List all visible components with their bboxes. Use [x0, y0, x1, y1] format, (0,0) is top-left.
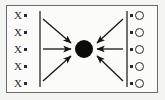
right-item-circle-icon	[135, 28, 144, 37]
right-item-circle-icon	[135, 11, 144, 20]
list-item[interactable]	[130, 9, 144, 21]
list-item[interactable]	[130, 77, 144, 89]
right-target-column	[130, 9, 156, 89]
right-item-circle-icon	[135, 79, 144, 88]
right-item-dot-icon	[130, 82, 133, 85]
right-item-dot-icon	[130, 48, 133, 51]
right-item-dot-icon	[130, 31, 133, 34]
list-item[interactable]	[130, 26, 144, 38]
list-item[interactable]	[130, 60, 144, 72]
arrow-left-bottom	[43, 56, 71, 81]
diagram-canvas: X X X X X	[0, 0, 165, 100]
list-item[interactable]	[130, 43, 144, 55]
central-node[interactable]	[75, 40, 93, 58]
arrow-left-top	[43, 19, 71, 43]
right-item-circle-icon	[135, 62, 144, 71]
arrow-right-bottom	[97, 56, 123, 81]
arrow-right-top	[97, 19, 123, 43]
right-item-dot-icon	[130, 65, 133, 68]
right-item-circle-icon	[135, 45, 144, 54]
right-item-dot-icon	[130, 14, 133, 17]
